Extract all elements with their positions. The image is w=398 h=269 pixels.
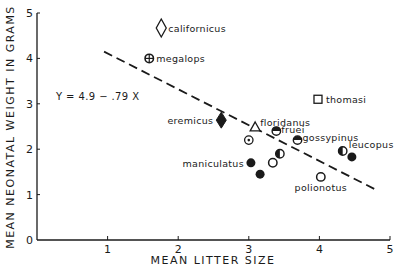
data-point bbox=[314, 95, 322, 103]
data-point bbox=[256, 170, 265, 179]
data-point bbox=[276, 150, 284, 158]
y-tick-label: 5 bbox=[26, 7, 33, 20]
data-point bbox=[272, 127, 280, 135]
x-axis-title: MEAN LITTER SIZE bbox=[150, 254, 275, 267]
marker-circle-filled bbox=[256, 170, 265, 179]
data-point bbox=[338, 147, 346, 155]
data-point bbox=[269, 159, 277, 167]
marker-square-open bbox=[314, 95, 322, 103]
data-point bbox=[216, 112, 226, 128]
marker-diamond-filled bbox=[216, 112, 226, 128]
x-tick-label: 1 bbox=[104, 243, 111, 256]
regression-equation: Y = 4.9 − .79 X bbox=[55, 91, 139, 102]
data-point bbox=[246, 158, 255, 167]
y-tick-label: 0 bbox=[26, 234, 33, 247]
point-label: polionotus bbox=[295, 182, 347, 193]
data-point bbox=[145, 54, 153, 62]
marker-center-dot bbox=[248, 139, 251, 142]
y-tick-label: 1 bbox=[26, 189, 33, 202]
y-tick-label: 4 bbox=[26, 52, 33, 65]
points-layer bbox=[145, 19, 356, 181]
y-tick-label: 3 bbox=[26, 98, 33, 111]
marker-circle-open bbox=[317, 173, 325, 181]
point-label: thomasi bbox=[326, 94, 366, 105]
marker-triangle-open bbox=[250, 122, 260, 131]
point-label: fruei bbox=[281, 124, 304, 135]
x-tick-label: 4 bbox=[316, 243, 323, 256]
point-label: eremicus bbox=[167, 115, 213, 126]
marker-circle-filled bbox=[347, 152, 356, 161]
marker-circle-open bbox=[269, 159, 277, 167]
scatter-chart: 12345012345 californicusmegalopseremicus… bbox=[0, 0, 398, 269]
point-label: megalops bbox=[156, 53, 205, 64]
y-axis-title: MEAN NEONATAL WEIGHT IN GRAMS bbox=[4, 5, 17, 249]
data-point bbox=[245, 136, 253, 144]
y-tick-label: 2 bbox=[26, 143, 33, 156]
data-point bbox=[347, 152, 356, 161]
point-labels-layer: californicusmegalopseremicusfloridanusth… bbox=[156, 23, 393, 193]
point-label: leucopus bbox=[349, 139, 394, 150]
point-label: californicus bbox=[168, 23, 226, 34]
data-point bbox=[250, 122, 260, 131]
data-point bbox=[317, 173, 325, 181]
point-label: maniculatus bbox=[182, 158, 243, 169]
data-point bbox=[156, 19, 166, 37]
data-point bbox=[293, 136, 301, 144]
x-tick-label: 5 bbox=[387, 243, 394, 256]
marker-diamond-open bbox=[156, 19, 166, 37]
marker-circle-filled bbox=[246, 158, 255, 167]
